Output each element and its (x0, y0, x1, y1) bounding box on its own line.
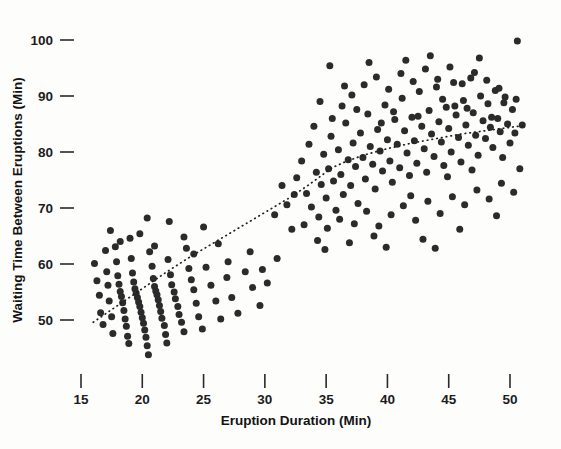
data-point (298, 157, 305, 164)
x-tick-label: 45 (441, 392, 457, 407)
data-point (507, 140, 514, 147)
data-point (364, 110, 371, 117)
data-point (314, 237, 321, 244)
data-point (122, 315, 129, 322)
data-point (374, 126, 381, 133)
data-point (340, 191, 347, 198)
data-point (97, 309, 104, 316)
data-point (385, 86, 392, 93)
data-point (195, 313, 202, 320)
data-point (462, 122, 469, 129)
data-point (330, 178, 337, 185)
data-point (158, 315, 165, 322)
data-point (162, 331, 169, 338)
data-point (412, 217, 419, 224)
data-point (399, 95, 406, 102)
x-tick-label: 25 (196, 392, 212, 407)
data-point (428, 131, 435, 138)
data-point (118, 293, 125, 300)
data-point (402, 57, 409, 64)
data-point (249, 284, 256, 291)
plot-canvas: 5060708090100 1520253035404550 Waiting T… (0, 0, 561, 449)
data-point (223, 274, 230, 281)
data-point (415, 113, 422, 120)
scatter-plot-figure: 5060708090100 1520253035404550 Waiting T… (0, 0, 561, 449)
data-point (440, 162, 447, 169)
data-point (308, 203, 315, 210)
data-point (123, 323, 130, 330)
data-point (375, 222, 382, 229)
data-point (163, 339, 170, 346)
data-point (259, 266, 266, 273)
data-point (225, 258, 232, 265)
data-point (342, 119, 349, 126)
data-point (352, 163, 359, 170)
y-tick-label: 100 (30, 33, 53, 48)
data-point (157, 308, 164, 315)
data-point (271, 211, 278, 218)
data-point (400, 202, 407, 209)
data-point (489, 144, 496, 151)
data-point (422, 66, 429, 73)
data-point (140, 320, 147, 327)
data-point (504, 121, 511, 128)
data-point (384, 136, 391, 143)
data-point (435, 118, 442, 125)
data-point (321, 246, 328, 253)
data-point (320, 151, 327, 158)
data-point (108, 313, 115, 320)
data-point (96, 292, 103, 299)
data-point (511, 129, 518, 136)
data-point (339, 103, 346, 110)
data-point (423, 169, 430, 176)
x-tick-label: 50 (502, 392, 517, 407)
y-axis-ticks: 5060708090100 (30, 33, 74, 328)
data-point (136, 230, 143, 237)
data-point (432, 245, 439, 252)
data-point (444, 173, 451, 180)
data-point (199, 325, 206, 332)
data-point (391, 116, 398, 123)
data-point (341, 82, 348, 89)
data-point (144, 342, 151, 349)
data-point (144, 215, 151, 222)
data-point (494, 115, 501, 122)
data-point (324, 225, 331, 232)
data-point (445, 125, 452, 132)
data-point (369, 161, 376, 168)
data-point (166, 218, 173, 225)
data-point (203, 264, 210, 271)
data-point (353, 106, 360, 113)
data-point (484, 100, 491, 107)
data-point (279, 182, 286, 189)
data-point (471, 69, 478, 76)
y-tick-label: 80 (38, 145, 53, 160)
data-point (431, 153, 438, 160)
data-point (102, 247, 109, 254)
data-point (483, 77, 490, 84)
data-point (151, 243, 158, 250)
data-point (388, 211, 395, 218)
data-point (464, 105, 471, 112)
data-point (100, 321, 107, 328)
data-point (128, 255, 135, 262)
data-point (348, 91, 355, 98)
x-axis-title: Eruption Duration (Min) (221, 413, 372, 428)
data-point (109, 330, 116, 337)
data-point (149, 263, 156, 270)
data-point (396, 164, 403, 171)
data-point (437, 210, 444, 217)
data-point (451, 103, 458, 110)
data-point (351, 220, 358, 227)
data-point (379, 168, 386, 175)
data-point (127, 235, 134, 242)
data-point (389, 179, 396, 186)
data-point (500, 99, 507, 106)
y-tick-label: 70 (38, 201, 53, 216)
data-point (116, 281, 123, 288)
data-point (171, 289, 178, 296)
y-tick-label: 90 (38, 89, 53, 104)
data-point (465, 142, 472, 149)
data-point (165, 256, 172, 263)
data-point (174, 303, 181, 310)
